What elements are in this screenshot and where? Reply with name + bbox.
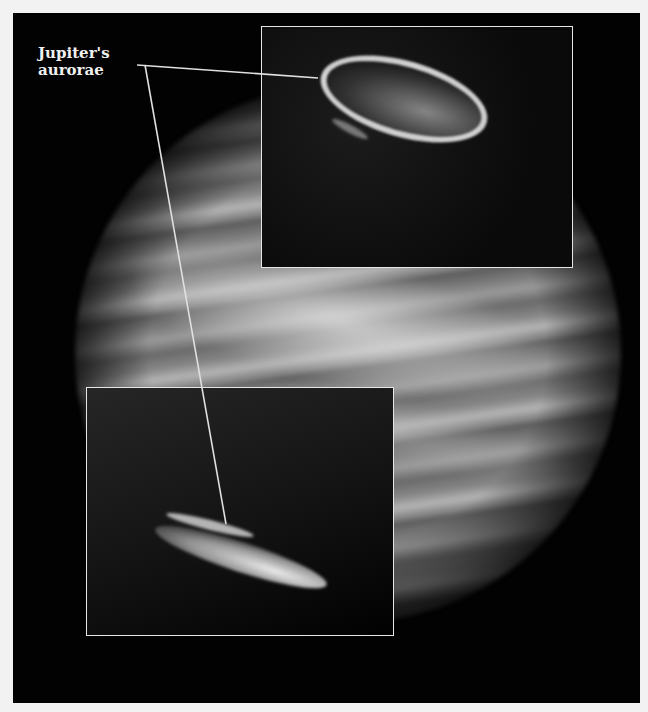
jupiter-photo — [13, 13, 640, 703]
southern-auroral-oval — [151, 515, 331, 599]
northern-auroral-oval — [311, 39, 497, 159]
label-line-1: Jupiter's — [38, 45, 110, 62]
southern-aurora-inset — [86, 387, 394, 636]
label-line-2: aurorae — [38, 62, 110, 79]
northern-aurora-inset — [261, 26, 573, 268]
aurorae-label: Jupiter's aurorae — [38, 45, 110, 79]
